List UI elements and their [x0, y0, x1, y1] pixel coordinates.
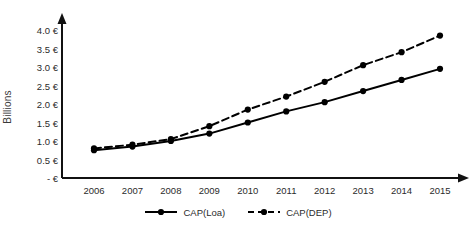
line-chart: Billions 4.0 €3.5 €3.0 €2.5 €2.0 €1.5 €1… — [0, 0, 476, 233]
x-axis-arrow-icon — [458, 174, 469, 183]
data-point-marker — [398, 77, 404, 83]
chart-legend: CAP(Loa)CAP(DEP) — [0, 206, 476, 218]
data-point-marker — [283, 108, 289, 114]
data-point-marker — [360, 88, 366, 94]
x-tick-label: 2014 — [391, 185, 412, 196]
x-tick-label: 2013 — [353, 185, 374, 196]
data-point-marker — [398, 49, 404, 55]
x-tick-label: 2011 — [276, 185, 296, 196]
series-line — [94, 69, 440, 150]
legend-dashed-line-icon — [247, 206, 281, 218]
data-point-marker — [437, 32, 443, 38]
series-1 — [91, 66, 443, 154]
x-tick-label: 2009 — [199, 185, 220, 196]
data-point-marker — [129, 142, 135, 148]
legend-solid-line-icon — [144, 206, 178, 218]
legend-item-1[interactable]: CAP(Loa) — [144, 206, 225, 218]
x-tick-label: 2008 — [160, 185, 181, 196]
y-axis-arrow-icon — [58, 13, 67, 24]
legend-item-2[interactable]: CAP(DEP) — [247, 206, 331, 218]
data-point-marker — [206, 131, 212, 137]
data-point-marker — [168, 136, 174, 142]
data-point-marker — [91, 145, 97, 151]
legend-label: CAP(DEP) — [286, 207, 331, 218]
series-line — [94, 36, 440, 149]
data-point-marker — [437, 66, 443, 72]
data-point-marker — [322, 99, 328, 105]
series-2 — [91, 32, 443, 151]
data-point-marker — [322, 79, 328, 85]
data-point-marker — [283, 94, 289, 100]
plot-area — [0, 0, 476, 233]
data-point-marker — [245, 119, 251, 125]
x-tick-label: 2006 — [83, 185, 104, 196]
x-tick-label: 2010 — [237, 185, 258, 196]
x-tick-label: 2012 — [314, 185, 335, 196]
x-tick-label: 2007 — [122, 185, 143, 196]
x-tick-label: 2015 — [429, 185, 450, 196]
data-point-marker — [206, 123, 212, 129]
data-point-marker — [360, 62, 366, 68]
legend-label: CAP(Loa) — [183, 207, 225, 218]
data-point-marker — [245, 106, 251, 112]
